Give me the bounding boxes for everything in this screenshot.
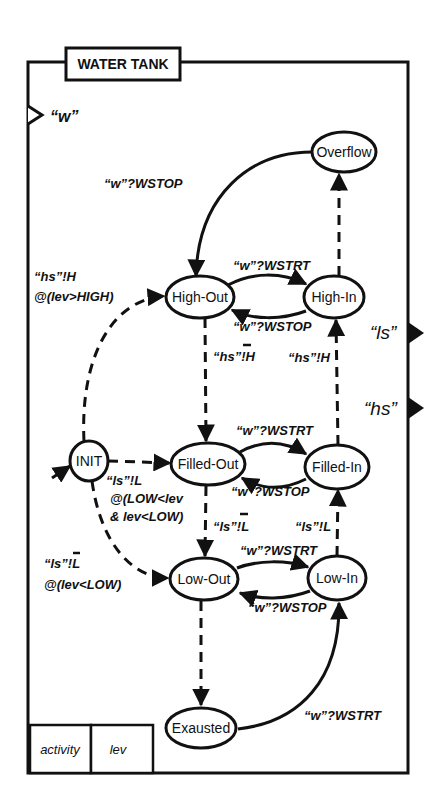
port-w-icon <box>28 106 42 124</box>
state-overflow-label: Overflow <box>316 144 372 160</box>
edge-filledin-to-highin[interactable] <box>336 320 338 445</box>
port-w-label: “w” <box>50 108 78 125</box>
state-high-out-label: High-Out <box>172 289 228 305</box>
edge-lowout-to-lowin[interactable] <box>237 562 308 568</box>
label-lowout-to-lowin: “w”?WSTRT <box>240 543 318 558</box>
attribute-table: activity lev <box>30 725 153 773</box>
label-init-to-highout-guard: @(lev>HIGH) <box>34 289 114 304</box>
state-init-label: INIT <box>76 453 103 469</box>
state-filled-in[interactable]: Filled-In <box>305 445 369 489</box>
edge-init-to-highout[interactable] <box>84 296 164 441</box>
edge-filledout-to-lowout[interactable] <box>205 486 206 556</box>
label-exausted-to-lowin: “w”?WSTRT <box>304 708 382 723</box>
label-lowin-to-lowout: “w”?WSTOP <box>248 600 327 615</box>
state-low-in-label: Low-In <box>316 570 358 586</box>
port-hs-icon <box>408 397 424 419</box>
label-highout-to-filledout: “hs”!H <box>213 349 256 364</box>
edge-init-to-filledout[interactable] <box>108 461 170 463</box>
edge-highout-to-highin[interactable] <box>228 275 306 285</box>
state-exausted-label: Exausted <box>172 720 230 736</box>
label-lowin-to-filledin: “ls”!L <box>295 519 331 534</box>
state-high-in-label: High-In <box>311 289 356 305</box>
state-overflow[interactable]: Overflow <box>312 132 376 172</box>
label-init-to-lowout: “ls”!L <box>44 556 80 571</box>
label-init-to-filledout-guard1: @(LOW<lev <box>110 491 184 506</box>
state-high-in[interactable]: High-In <box>304 276 364 318</box>
state-filled-out-label: Filled-Out <box>178 456 239 472</box>
label-filledin-to-filledout: “w”?WSTOP <box>231 484 310 499</box>
edge-lowin-to-filledin[interactable] <box>337 490 338 556</box>
port-w[interactable]: “w” <box>28 106 78 125</box>
states: Overflow High-Out High-In INIT Filled-Ou… <box>70 132 376 748</box>
title-box: WATER TANK <box>66 48 180 80</box>
state-low-out-label: Low-Out <box>178 571 231 587</box>
port-hs[interactable]: “hs” <box>364 397 424 419</box>
edge-highin-to-highout[interactable] <box>232 310 306 318</box>
edge-highout-to-filledout[interactable] <box>205 318 206 441</box>
label-overflow-to-highout: “w”?WSTOP <box>104 176 183 191</box>
port-ls[interactable]: “ls” <box>370 322 424 344</box>
port-ls-label: “ls” <box>370 322 398 343</box>
state-filled-in-label: Filled-In <box>312 459 362 475</box>
label-init-to-filledout: “ls”!L <box>106 473 142 488</box>
label-filledout-to-filledin: “w”?WSTRT <box>236 423 314 438</box>
port-hs-label: “hs” <box>364 398 398 419</box>
attr-activity-label: activity <box>40 742 81 757</box>
statechart-diagram: WATER TANK “w” “ls” “hs” <box>0 0 441 801</box>
label-filledout-to-lowout: “ls”!L <box>213 519 249 534</box>
state-exausted[interactable]: Exausted <box>166 708 236 748</box>
edge-entry-to-init[interactable] <box>52 466 70 478</box>
attr-lev-label: lev <box>110 742 128 757</box>
edge-filledout-to-filledin[interactable] <box>240 443 306 454</box>
label-highout-to-highin: “w”?WSTRT <box>233 258 311 273</box>
state-init[interactable]: INIT <box>70 441 108 481</box>
diagram-title: WATER TANK <box>77 56 168 72</box>
label-init-to-highout: “hs”!H <box>34 269 77 284</box>
label-init-to-filledout-guard2: & lev<LOW) <box>110 509 183 524</box>
label-filledin-to-highin: “hs”!H <box>288 350 331 365</box>
state-low-out[interactable]: Low-Out <box>170 558 238 600</box>
label-init-to-lowout-guard: @(lev<LOW) <box>44 577 121 592</box>
state-filled-out[interactable]: Filled-Out <box>171 443 245 485</box>
edge-lowin-to-lowout[interactable] <box>240 591 310 598</box>
port-ls-icon <box>408 322 424 344</box>
label-highin-to-highout: “w”?WSTOP <box>233 319 312 334</box>
state-low-in[interactable]: Low-In <box>308 556 366 600</box>
state-high-out[interactable]: High-Out <box>166 276 234 318</box>
